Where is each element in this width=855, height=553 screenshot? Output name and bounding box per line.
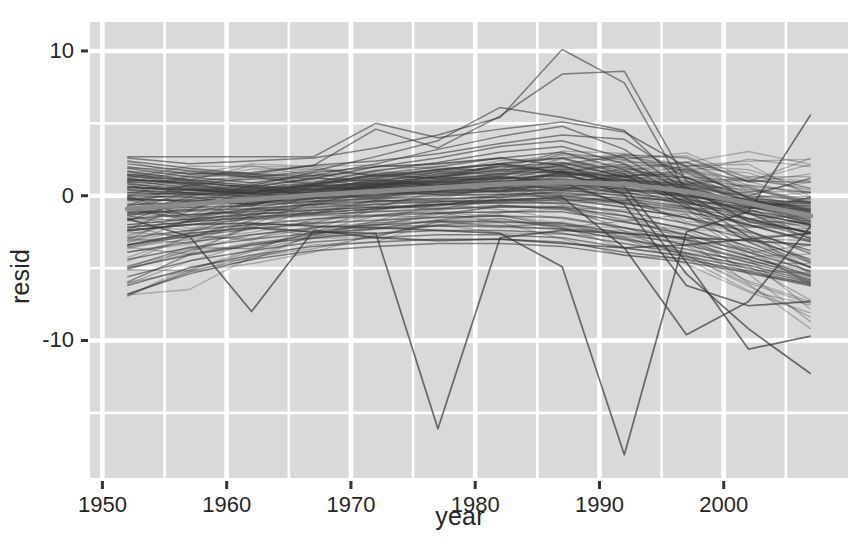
y-tick-label: -10	[0, 327, 74, 353]
residual-spaghetti-plot	[0, 0, 855, 553]
y-tick-label: 0	[0, 183, 74, 209]
x-tick-label: 2000	[699, 492, 748, 518]
x-tick-label: 1970	[326, 492, 375, 518]
y-tick-label: 10	[0, 38, 74, 64]
x-tick-label: 1990	[575, 492, 624, 518]
x-tick-label: 1950	[78, 492, 127, 518]
x-tick-label: 1980	[451, 492, 500, 518]
y-axis-title: resid	[0, 0, 40, 553]
x-tick-label: 1960	[202, 492, 251, 518]
chart-container: resid year 100-10 1950196019701980199020…	[0, 0, 855, 553]
